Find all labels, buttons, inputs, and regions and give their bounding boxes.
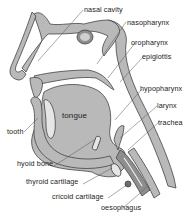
pharynx-anatomy-diagram — [0, 0, 192, 223]
label-thyroid-cartilage: thyroid cartilage — [26, 178, 78, 186]
label-epiglottis: epiglottis — [142, 53, 171, 61]
label-cricoid-cartilage: cricoid cartilage — [52, 193, 104, 201]
label-trachea: trachea — [158, 119, 183, 127]
nose — [10, 12, 36, 80]
label-nasopharynx: nasopharynx — [127, 19, 169, 27]
label-oropharynx: oropharynx — [131, 39, 168, 47]
upper-lip — [30, 77, 43, 97]
label-hyoid-bone: hyoid bone — [17, 160, 53, 168]
label-oesophagus: oesophagus — [101, 204, 141, 212]
nasal-roof — [22, 13, 120, 72]
label-larynx: larynx — [157, 102, 177, 110]
label-hypopharynx: hypopharynx — [140, 85, 182, 93]
label-nasal-cavity: nasal cavity — [84, 6, 123, 14]
label-tongue: tongue — [62, 112, 87, 120]
label-tooth: tooth — [7, 128, 24, 136]
